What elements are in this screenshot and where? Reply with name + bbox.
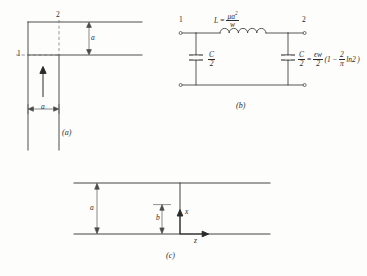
capacitance-right-fraction: C 2 (298, 51, 305, 68)
part-b-circuit-drawing (178, 8, 367, 128)
figure-part-a: 1 2 a a (a) (0, 0, 180, 150)
capacitance-equals: = (307, 55, 312, 64)
part-a-caption: (a) (62, 128, 71, 137)
capacitance-right-denominator: 2 (298, 60, 305, 68)
capacitance-minus: − (332, 55, 337, 64)
part-b-caption: (b) (236, 101, 245, 110)
part-a-port-2-label: 2 (56, 11, 60, 19)
figure-part-c: a b x z (c) (52, 166, 337, 276)
inductance-fraction: μa2 w (226, 11, 238, 29)
axis-z-arrowhead (202, 231, 208, 237)
part-a-dimension-a-horizontal-label: a (41, 103, 45, 111)
inductance-denominator: w (226, 21, 238, 29)
capacitance-left-label: C 2 (208, 51, 215, 68)
part-c-caption: (c) (166, 251, 175, 260)
inductance-formula: L = μa2 w (214, 11, 239, 29)
part-a-port-1-label: 1 (17, 50, 21, 58)
part-c-drawing (52, 166, 337, 276)
inductance-numerator: μa (227, 12, 235, 21)
part-c-axis-x-label: x (185, 208, 188, 216)
terminal-port-2-top (303, 32, 306, 35)
part-c-dimension-b-label: b (156, 214, 160, 222)
capacitance-right-formula: C 2 = ϵw 2 (1 − 2 π ln2 ) (298, 51, 360, 68)
capacitor-left-gap (193, 56, 199, 60)
part-b-port-2-label: 2 (302, 16, 306, 24)
capacitor-right-gap (285, 56, 291, 60)
capacitance-left-denominator: 2 (208, 60, 215, 68)
capacitance-paren-close: ) (357, 55, 360, 64)
capacitance-epsilon-fraction: ϵw 2 (313, 51, 323, 68)
terminal-port-1-top (179, 32, 182, 35)
axis-x-arrowhead (177, 210, 183, 216)
capacitance-epsilon-denominator: 2 (313, 60, 323, 68)
part-a-drawing (0, 0, 180, 150)
capacitance-left-fraction: C 2 (208, 51, 215, 68)
inductance-equals: = (220, 16, 225, 25)
terminal-port-1-bottom (179, 84, 182, 87)
figure-page: 1 2 a a (a) (0, 0, 367, 276)
part-c-axis-z-label: z (194, 237, 197, 245)
capacitance-ln-term: ln2 (346, 55, 356, 64)
field-direction-arrow (40, 67, 46, 98)
inductance-numerator-exponent: 2 (235, 10, 238, 16)
dimension-a (95, 183, 100, 233)
capacitance-two-over-pi: 2 π (339, 51, 345, 68)
part-c-dimension-a-label: a (90, 204, 94, 212)
capacitance-paren-open: (1 (325, 55, 331, 64)
figure-part-b: 1 2 L = μa2 w C 2 C 2 = ϵw (178, 8, 367, 128)
part-a-dimension-a-vertical-label: a (91, 34, 95, 42)
coordinate-axes (177, 210, 208, 237)
inductance-symbol: L (214, 16, 218, 25)
terminal-port-2-bottom (303, 84, 306, 87)
capacitance-two-over-pi-denominator: π (339, 60, 345, 68)
part-b-port-1-label: 1 (179, 16, 183, 24)
